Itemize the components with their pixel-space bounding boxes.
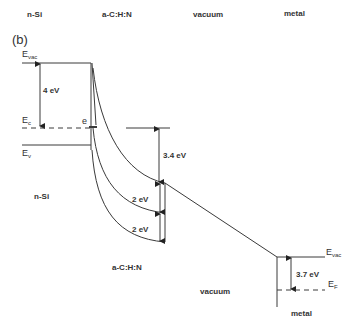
workfunction-label: 3.7 eV: [296, 270, 320, 279]
vacuum-label: vacuum: [200, 287, 230, 296]
ec-label: Ec: [22, 115, 31, 126]
nsi-label: n-Si: [34, 192, 49, 201]
acn-label: a-C:H:N: [112, 263, 142, 272]
band-diagram: n-Si a-C:H:N vacuum metal (b) Evac 4 eV …: [0, 0, 350, 326]
ef-label: EF: [328, 279, 338, 290]
acn-valence-band: [92, 150, 165, 242]
header-nsi: n-Si: [27, 10, 42, 19]
gap-lower-label: 2 eV: [132, 225, 149, 234]
affinity-label: 4 eV: [43, 86, 60, 95]
acn-conduction-band: [93, 128, 165, 213]
band-diagram-svg: n-Si a-C:H:N vacuum metal (b) Evac 4 eV …: [0, 0, 350, 326]
electron-label: e: [82, 116, 87, 126]
gap-upper-label: 2 eV: [132, 195, 149, 204]
offset-label: 3.4 eV: [163, 151, 187, 160]
metal-label: metal: [291, 309, 312, 318]
header-acn: a-C:H:N: [102, 10, 132, 19]
ev-label: Ev: [22, 148, 31, 159]
panel-label: (b): [12, 32, 28, 47]
evac-left-label: Evac: [22, 49, 37, 60]
acn-vacuum-band: [93, 68, 165, 183]
header-vacuum: vacuum: [193, 10, 223, 19]
vacuum-level-slope: [165, 183, 277, 257]
evac-right-label: Evac: [326, 247, 341, 258]
header-metal: metal: [284, 9, 305, 18]
